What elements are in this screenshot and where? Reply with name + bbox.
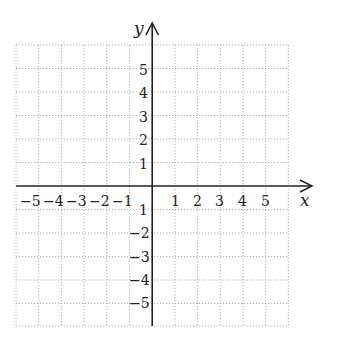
y-tick-label: 4 (139, 85, 148, 101)
x-tick-label: 3 (215, 193, 224, 209)
y-tick-label: 1 (139, 202, 148, 218)
x-tick-label: 1 (171, 193, 180, 209)
x-tick-label: −1 (112, 193, 133, 209)
y-tick-label: 1 (139, 156, 148, 172)
x-tick-label: −5 (20, 193, 41, 209)
y-tick-label: 2 (139, 132, 148, 148)
y-tick-label: −4 (129, 272, 150, 288)
y-tick-label: −2 (129, 225, 150, 241)
x-tick-label: −3 (66, 193, 87, 209)
y-tick-label: 3 (139, 109, 148, 125)
x-tick-label: 5 (261, 193, 270, 209)
coordinate-plane: x y −5 −4 −3 −2 −1 1 2 3 4 5 5 4 3 2 1 1… (0, 0, 341, 340)
x-tick-label: −2 (89, 193, 110, 209)
y-tick-label: 5 (139, 62, 148, 78)
y-tick-label: −5 (129, 295, 150, 311)
x-tick-label: −4 (43, 193, 64, 209)
x-axis (16, 180, 312, 192)
x-tick-label: 4 (238, 193, 247, 209)
y-tick-label: −3 (129, 249, 150, 265)
x-axis-label: x (300, 190, 310, 210)
y-axis-label: y (133, 18, 144, 38)
x-tick-label: 2 (193, 193, 202, 209)
